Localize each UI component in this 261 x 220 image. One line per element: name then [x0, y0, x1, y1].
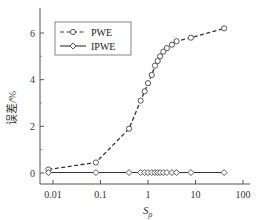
data-point-circle [169, 42, 174, 47]
data-point-circle [149, 72, 154, 77]
legend: PWEIPWE [55, 22, 131, 55]
x-tick-label: 0.01 [44, 189, 62, 200]
x-tick-label: 100 [236, 189, 251, 200]
x-tick-label: 10 [191, 189, 201, 200]
x-tick-label: 1 [146, 189, 151, 200]
data-point-circle [138, 98, 143, 103]
x-tick-label: 0.1 [94, 189, 107, 200]
data-point-circle [174, 39, 179, 44]
y-tick-label: 6 [30, 28, 35, 39]
x-axis-title: Sρ [143, 204, 153, 219]
data-point-diamond [188, 170, 194, 176]
legend-label-ipwe: IPWE [91, 41, 115, 52]
data-point-circle [221, 26, 226, 31]
data-point-circle [142, 89, 147, 94]
y-tick-label: 4 [30, 74, 35, 85]
y-tick-label: 0 [30, 168, 35, 179]
data-point-diamond [174, 170, 180, 176]
legend-marker-circle-icon [70, 29, 75, 34]
data-point-circle [126, 126, 131, 131]
data-point-circle [93, 160, 98, 165]
y-axis-title: 误差/% [5, 91, 18, 125]
data-point-diamond [93, 170, 99, 176]
data-point-circle [158, 54, 163, 59]
chart-canvas: 02460.010.1110100 PWEIPWE 误差/%Sρ [0, 0, 261, 220]
data-point-circle [164, 46, 169, 51]
y-tick-label: 2 [30, 121, 35, 132]
data-point-circle [145, 81, 150, 86]
data-point-diamond [126, 170, 132, 176]
data-point-circle [188, 35, 193, 40]
legend-label-pwe: PWE [91, 27, 112, 38]
data-point-diamond [221, 170, 227, 176]
axis-titles: 误差/%Sρ [5, 91, 153, 219]
